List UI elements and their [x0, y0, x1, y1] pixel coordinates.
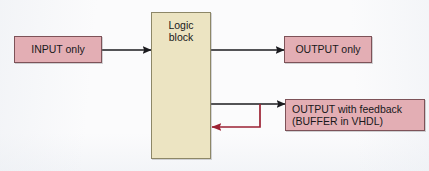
output-block-label: OUTPUT only: [295, 43, 360, 55]
feedback-block-label-line1: OUTPUT with feedback: [292, 103, 402, 115]
input-block[interactable]: INPUT only: [14, 36, 102, 63]
connector-layer: [0, 0, 429, 171]
output-block[interactable]: OUTPUT only: [284, 36, 372, 63]
diagram-canvas: INPUT only Logic block OUTPUT only OUTPU…: [0, 0, 429, 171]
logic-block-label-line2: block: [169, 31, 194, 43]
feedback-return-arrow: [212, 104, 260, 127]
feedback-output-block[interactable]: OUTPUT with feedback (BUFFER in VHDL): [285, 99, 425, 131]
logic-block-label-line1: Logic: [168, 19, 193, 31]
logic-block[interactable]: Logic block: [151, 12, 211, 159]
input-block-label: INPUT only: [31, 43, 85, 55]
feedback-block-label-line2: (BUFFER in VHDL): [292, 115, 383, 127]
